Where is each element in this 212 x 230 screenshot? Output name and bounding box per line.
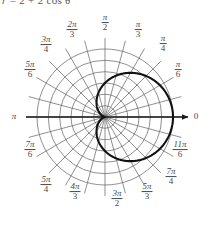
fraction: 5π4 — [40, 175, 51, 195]
fraction: π6 — [175, 60, 182, 80]
fraction: 3π2 — [111, 189, 122, 209]
fraction-denominator: 4 — [165, 178, 176, 187]
fraction-denominator: 2 — [111, 200, 122, 209]
angle-label-pi-6: π6 — [175, 60, 182, 80]
fraction-denominator: 6 — [175, 71, 182, 80]
fraction: 3π4 — [40, 35, 51, 55]
angle-label-0: 0 — [194, 112, 199, 121]
angle-label-5pi-6: 5π6 — [24, 60, 35, 80]
fraction-denominator: 6 — [173, 151, 188, 160]
fraction-denominator: 4 — [160, 45, 167, 54]
angle-label-2pi-3: 2π3 — [66, 20, 77, 40]
angle-value: π — [12, 113, 17, 122]
fraction: π2 — [102, 13, 109, 33]
fraction: π3 — [135, 20, 142, 40]
fraction-denominator: 6 — [24, 71, 35, 80]
fraction: 5π6 — [24, 60, 35, 80]
fraction-denominator: 4 — [40, 186, 51, 195]
angle-label-pi-3: π3 — [135, 20, 142, 40]
angle-label-pi-2: π2 — [102, 13, 109, 33]
angle-label-4pi-3: 4π3 — [69, 182, 80, 202]
fraction: π4 — [160, 34, 167, 54]
angle-label-3pi-2: 3π2 — [111, 189, 122, 209]
angle-label-pi-4: π4 — [160, 34, 167, 54]
fraction-denominator: 6 — [24, 151, 35, 160]
fraction: 2π3 — [66, 20, 77, 40]
fraction: 5π3 — [141, 182, 152, 202]
angle-label-5pi-4: 5π4 — [40, 175, 51, 195]
fraction: 11π6 — [173, 140, 188, 160]
angle-label-7pi-4: 7π4 — [165, 167, 176, 187]
angle-label-5pi-3: 5π3 — [141, 182, 152, 202]
polar-plot: 0π6π4π3π22π33π45π6π7π65π44π33π25π37π411π… — [0, 0, 212, 230]
fraction-denominator: 3 — [141, 193, 152, 202]
fraction: 7π4 — [165, 167, 176, 187]
angle-label-3pi-4: 3π4 — [40, 35, 51, 55]
fraction-denominator: 2 — [102, 24, 109, 33]
angle-label-11pi-6: 11π6 — [173, 140, 188, 160]
fraction: 7π6 — [24, 140, 35, 160]
fraction: 4π3 — [69, 182, 80, 202]
fraction-denominator: 3 — [66, 31, 77, 40]
fraction-denominator: 4 — [40, 46, 51, 55]
angle-label-pi: π — [12, 112, 17, 121]
limacon-final-svg — [0, 0, 212, 230]
limacon-final-path — [97, 73, 174, 161]
fraction-denominator: 3 — [69, 193, 80, 202]
angle-label-7pi-6: 7π6 — [24, 140, 35, 160]
angle-value: 0 — [194, 113, 199, 122]
fraction-denominator: 3 — [135, 31, 142, 40]
